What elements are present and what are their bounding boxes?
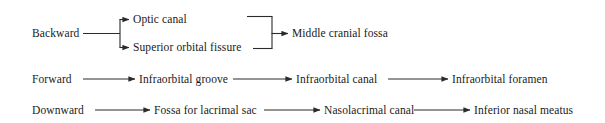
node-infraorbital-groove: Infraorbital groove [139, 73, 228, 86]
node-inferior-nasal-meatus: Inferior nasal meatus [474, 104, 573, 117]
node-forward: Forward [32, 73, 72, 86]
node-fossa-for-lacrimal-sac: Fossa for lacrimal sac [154, 104, 257, 117]
node-superior-orbital-fissure: Superior orbital fissure [133, 41, 241, 54]
backward-split-connector [83, 20, 129, 48]
node-infraorbital-canal: Infraorbital canal [296, 73, 377, 86]
node-optic-canal: Optic canal [133, 13, 187, 26]
node-downward: Downward [32, 104, 84, 117]
node-middle-cranial-fossa: Middle cranial fossa [292, 27, 388, 40]
node-infraorbital-foramen: Infraorbital foramen [452, 73, 548, 86]
middle-cranial-fossa-merge-connector [247, 17, 288, 49]
node-backward: Backward [32, 27, 79, 40]
flow-diagram: Backward Optic canal Superior orbital fi… [0, 0, 605, 123]
node-nasolacrimal-canal: Nasolacrimal canal [324, 104, 414, 117]
